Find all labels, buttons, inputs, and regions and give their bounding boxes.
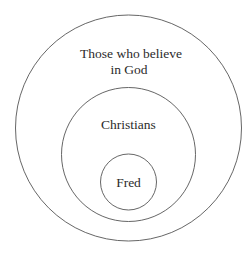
- label-believers-line-1: Those who believe: [80, 46, 182, 61]
- venn-diagram-svg: Those who believe in God Christians Fred: [0, 0, 249, 258]
- label-believers-line-2: in God: [110, 62, 147, 77]
- label-christians: Christians: [101, 117, 156, 132]
- circle-christians: [62, 88, 196, 222]
- label-fred: Fred: [116, 175, 141, 190]
- venn-diagram: Those who believe in God Christians Fred: [0, 0, 249, 258]
